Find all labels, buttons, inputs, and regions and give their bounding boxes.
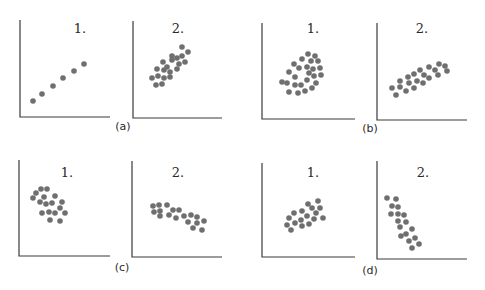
data-point <box>309 85 315 91</box>
data-point <box>188 212 194 218</box>
data-point <box>310 66 316 72</box>
data-point <box>406 80 412 86</box>
data-point <box>298 217 304 223</box>
data-point <box>305 201 311 207</box>
data-point <box>149 75 155 81</box>
data-point <box>33 190 39 196</box>
data-point <box>174 66 180 72</box>
data-point <box>39 210 45 216</box>
data-point <box>179 53 185 59</box>
data-point <box>43 201 49 207</box>
data-point <box>150 203 156 209</box>
data-point <box>47 217 53 223</box>
data-point <box>154 66 160 72</box>
data-point <box>176 207 182 213</box>
data-point <box>315 58 321 64</box>
data-point <box>397 84 403 90</box>
data-point <box>41 194 47 200</box>
scatter-panel-a-2: 2. <box>133 21 222 118</box>
data-point <box>311 216 317 222</box>
data-point <box>190 225 196 231</box>
data-point <box>284 80 290 86</box>
data-point <box>295 90 301 96</box>
data-point <box>181 213 187 219</box>
data-point <box>173 215 179 221</box>
panel-title: 2. <box>172 165 184 180</box>
data-point <box>49 200 55 206</box>
group-label-a: (a) <box>115 120 130 133</box>
data-point <box>157 208 163 214</box>
panel-title: 2. <box>417 165 429 180</box>
data-point <box>179 44 185 50</box>
data-point <box>312 53 318 59</box>
data-point <box>164 64 170 70</box>
data-point <box>62 210 68 216</box>
data-point <box>426 64 432 70</box>
data-point <box>306 70 312 76</box>
data-point <box>405 74 411 80</box>
data-point <box>389 85 395 91</box>
data-point <box>298 82 304 88</box>
data-point <box>57 205 63 211</box>
data-point <box>304 77 310 83</box>
data-point <box>393 92 399 98</box>
data-point <box>185 49 191 55</box>
data-point <box>155 73 161 79</box>
data-point <box>52 193 58 199</box>
data-point <box>286 215 292 221</box>
data-point <box>153 82 159 88</box>
data-point <box>166 212 172 218</box>
data-point <box>170 207 176 213</box>
scatter-panel-d-1: 1. <box>262 163 355 257</box>
data-point <box>156 202 162 208</box>
panel-title: 1. <box>307 165 319 180</box>
data-point <box>432 67 438 73</box>
data-point <box>159 81 165 87</box>
data-point <box>57 218 63 224</box>
data-point <box>291 210 297 216</box>
data-point <box>393 196 399 202</box>
data-point <box>299 223 305 229</box>
data-point <box>46 209 52 215</box>
panel-title: 1. <box>61 165 73 180</box>
data-point <box>401 212 407 218</box>
data-point <box>292 82 298 88</box>
data-point <box>398 233 404 239</box>
data-point <box>182 59 188 65</box>
data-point <box>286 89 292 95</box>
data-point <box>305 51 311 57</box>
data-point <box>201 218 207 224</box>
data-point <box>174 55 180 61</box>
data-point <box>444 68 450 74</box>
data-point <box>436 61 442 67</box>
data-point <box>309 205 315 211</box>
scatter-figure: 1.2.1.2.1.2.1.2. (a) (b) (c) (d) <box>0 0 485 290</box>
data-point <box>30 98 36 104</box>
data-point <box>426 75 432 81</box>
data-point <box>315 198 321 204</box>
data-point <box>164 202 170 208</box>
data-point <box>313 210 319 216</box>
group-label-c: (c) <box>115 261 130 274</box>
group-label-b: (b) <box>362 122 378 135</box>
data-point <box>71 68 77 74</box>
data-point <box>395 204 401 210</box>
data-point <box>304 213 310 219</box>
data-point <box>306 221 312 227</box>
data-point <box>30 195 36 201</box>
data-point <box>37 199 43 205</box>
data-point <box>279 79 285 85</box>
data-point <box>176 61 182 67</box>
data-point <box>44 186 50 192</box>
data-point <box>409 226 415 232</box>
data-point <box>60 75 66 81</box>
data-point <box>412 235 418 241</box>
data-point <box>317 205 323 211</box>
data-point <box>414 78 420 84</box>
scatter-panel-b-2: 2. <box>377 21 467 120</box>
group-labels: (a) (b) (c) (d) <box>115 120 378 277</box>
data-point <box>194 214 200 220</box>
data-point <box>416 241 422 247</box>
panel-title: 2. <box>416 21 428 36</box>
data-point <box>288 227 294 233</box>
